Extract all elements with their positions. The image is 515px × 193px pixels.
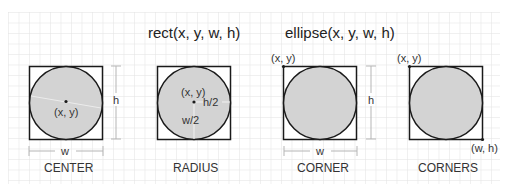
- width-label: w: [60, 145, 69, 157]
- point-label: (x, y): [181, 86, 205, 98]
- point-label: (x, y): [271, 52, 295, 64]
- half-width-label: w/2: [181, 114, 199, 126]
- width-label: w: [315, 145, 324, 157]
- center-point: [192, 100, 195, 103]
- point-label: (x, y): [397, 52, 421, 64]
- mode-label-corner: CORNER: [297, 161, 349, 175]
- half-height-label: h/2: [203, 96, 218, 108]
- mode-label-radius: RADIUS: [173, 161, 218, 175]
- corner-point: [282, 65, 285, 68]
- mode-label-center: CENTER: [44, 161, 94, 175]
- height-label: h: [113, 94, 119, 106]
- ellipse-title: ellipse(x, y, w, h): [285, 24, 395, 41]
- center-point: [64, 100, 67, 103]
- mode-label-corners: CORNERS: [418, 161, 478, 175]
- ellipse-shape: [410, 67, 483, 140]
- point-label: (x, y): [54, 106, 78, 118]
- opposite-point-label: (w, h): [471, 142, 498, 154]
- opposite-corner-point: [481, 138, 484, 141]
- rect-title: rect(x, y, w, h): [148, 24, 240, 41]
- corner-point: [408, 65, 411, 68]
- ellipse-mode-diagram: rect(x, y, w, h) ellipse(x, y, w, h) (x,…: [0, 0, 515, 193]
- height-label: h: [368, 94, 374, 106]
- ellipse-shape: [284, 67, 357, 140]
